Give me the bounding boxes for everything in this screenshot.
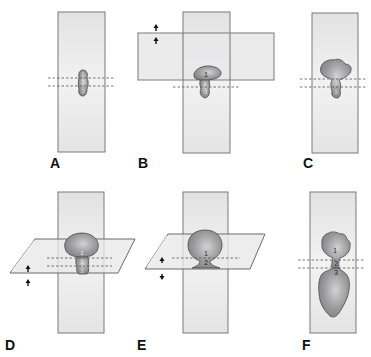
panel-label-d: D [5, 337, 15, 353]
up-arrows-icon [26, 265, 31, 286]
region-label: 3 [334, 269, 338, 276]
panel-label-e: E [137, 337, 146, 353]
panel-e: 1 2 [145, 192, 265, 333]
panel-a: 1 2 3 [48, 12, 114, 152]
panel-label-f: F [302, 337, 311, 353]
region-label: 2 [334, 260, 338, 267]
panel-label-b: B [138, 155, 148, 171]
panel-label-c: C [303, 155, 313, 171]
region-label: 1 [204, 71, 208, 78]
panel-c: 1 2 3 [300, 13, 366, 153]
panel-label-a: A [50, 155, 60, 171]
region-label: 1 [333, 247, 337, 254]
panel-b: 1 2 3 [138, 12, 274, 153]
region-label: 1 [204, 250, 208, 257]
panel-d: 1 2 3 [10, 192, 135, 333]
region-label: 2 [204, 259, 208, 266]
diagram-canvas: 1 2 3 1 2 3 1 2 3 1 [0, 0, 371, 357]
panel-f: 1 2 3 [298, 192, 364, 333]
